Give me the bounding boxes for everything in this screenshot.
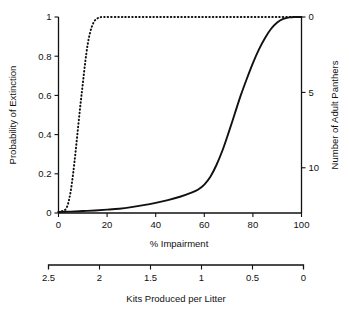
bottom-tick-label: 40 (150, 219, 161, 230)
secondary-tick-label: 1.5 (144, 272, 157, 283)
y2-axis-title: Number of Adult Panthers (329, 60, 340, 169)
bottom-tick-label: 80 (248, 219, 259, 230)
left-axis-ticks: 00.20.40.60.81 (38, 11, 58, 218)
secondary-tick-label: 2.5 (42, 272, 55, 283)
bottom-tick-label: 20 (102, 219, 113, 230)
left-tick-label: 0.6 (38, 90, 51, 101)
left-tick-label: 0 (46, 207, 51, 218)
y-axis-title: Probability of Extinction (7, 66, 18, 165)
left-tick-label: 0.8 (38, 51, 51, 62)
secondary-tick-label: 0.5 (246, 272, 259, 283)
secondary-axis-ticks: 2.521.510.50 (42, 265, 306, 283)
bottom-tick-label: 100 (294, 219, 310, 230)
right-tick-label: 10 (309, 162, 320, 173)
bottom-tick-label: 60 (199, 219, 210, 230)
secondary-x-axis-title: Kits Produced per Litter (126, 293, 225, 304)
extinction-probability-chart: 00.20.40.60.81 0510 020406080100 2.521.5… (0, 0, 349, 312)
x-axis-title: % Impairment (150, 238, 209, 249)
bottom-tick-label: 0 (56, 219, 61, 230)
extinction-probability-solid-curve (59, 17, 302, 212)
left-tick-label: 0.4 (38, 129, 51, 140)
figure-container: 00.20.40.60.81 0510 020406080100 2.521.5… (0, 0, 349, 312)
right-tick-label: 0 (309, 11, 314, 22)
right-axis-ticks: 0510 (302, 11, 320, 173)
left-tick-label: 0.2 (38, 168, 51, 179)
left-tick-label: 1 (46, 11, 51, 22)
secondary-tick-label: 1 (199, 272, 204, 283)
secondary-axis-line (49, 265, 304, 270)
right-tick-label: 5 (309, 87, 314, 98)
bottom-axis-ticks: 020406080100 (56, 213, 310, 230)
secondary-tick-label: 2 (97, 272, 102, 283)
secondary-tick-label: 0 (301, 272, 306, 283)
adult-panthers-dotted-curve (59, 17, 302, 212)
data-curves (59, 17, 302, 212)
